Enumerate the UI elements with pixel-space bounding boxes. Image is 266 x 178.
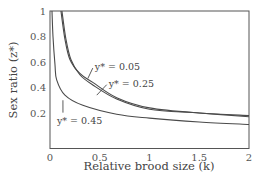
series-line-0 bbox=[61, 11, 249, 116]
annotation-label: y* = 0.05 bbox=[94, 61, 140, 72]
series-line-1 bbox=[62, 11, 249, 117]
y-tick-label: 0.4 bbox=[30, 82, 46, 93]
y-tick-label: 1 bbox=[40, 6, 46, 17]
curves bbox=[52, 11, 249, 124]
x-tick-label: 2 bbox=[246, 152, 252, 163]
sex-ratio-chart: 00.511.52 0.20.40.60.81 y* = 0.05y* = 0.… bbox=[0, 0, 266, 178]
y-tick-label: 0.2 bbox=[30, 108, 46, 119]
series-line-2 bbox=[52, 11, 249, 124]
annotation-label: y* = 0.25 bbox=[108, 78, 154, 89]
y-tick-label: 0.6 bbox=[30, 57, 46, 68]
annotation-label: y* = 0.45 bbox=[56, 115, 102, 126]
y-axis-label: Sex ratio (z*) bbox=[6, 42, 20, 119]
x-axis-label: Relative brood size (k) bbox=[83, 159, 214, 173]
y-axis-ticks: 0.20.40.60.81 bbox=[30, 6, 46, 119]
y-tick-label: 0.8 bbox=[30, 31, 46, 42]
x-tick-label: 0 bbox=[47, 152, 53, 163]
annotation-leader-line bbox=[88, 68, 93, 78]
